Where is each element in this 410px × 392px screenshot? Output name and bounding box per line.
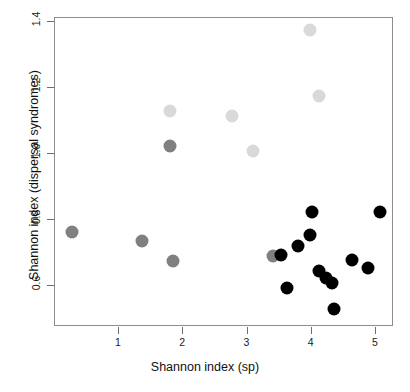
x-tick-label: 3 [235, 336, 259, 348]
data-point [166, 255, 179, 268]
y-axis-tick [47, 285, 54, 286]
y-axis-tick [47, 87, 54, 88]
data-point [136, 235, 149, 248]
data-point [373, 205, 386, 218]
x-axis-tick [182, 327, 183, 334]
data-point [292, 240, 305, 253]
y-tick-label: 1.4 [0, 13, 44, 25]
data-point [328, 303, 341, 316]
data-point [163, 139, 176, 152]
data-point [362, 261, 375, 274]
x-axis-tick [247, 327, 248, 334]
x-axis-tick [375, 327, 376, 334]
data-point [303, 228, 316, 241]
y-axis-tick [47, 153, 54, 154]
data-point [66, 225, 79, 238]
data-point [163, 105, 176, 118]
x-tick-label: 5 [363, 336, 387, 348]
data-point [313, 90, 326, 103]
data-point [247, 144, 260, 157]
scatter-plot: 0.6 0.8 1.0 1.2 1.4 1 2 3 4 5 Shannon in… [0, 0, 410, 392]
x-axis-tick [118, 327, 119, 334]
y-axis-title: Shannon index (dispersal syndromes) [27, 25, 41, 325]
y-axis-tick [47, 21, 54, 22]
data-point [305, 205, 318, 218]
x-tick-label: 1 [106, 336, 130, 348]
y-axis-tick [47, 219, 54, 220]
x-axis-tick [311, 327, 312, 334]
x-tick-label: 4 [299, 336, 323, 348]
data-point [274, 248, 287, 261]
x-axis-title: Shannon index (sp) [0, 360, 410, 374]
x-tick-label: 2 [170, 336, 194, 348]
data-points-layer [55, 18, 392, 325]
data-point [303, 24, 316, 37]
data-point [280, 281, 293, 294]
data-point [346, 253, 359, 266]
data-point [226, 110, 239, 123]
data-point [325, 276, 338, 289]
plot-frame [54, 17, 393, 326]
